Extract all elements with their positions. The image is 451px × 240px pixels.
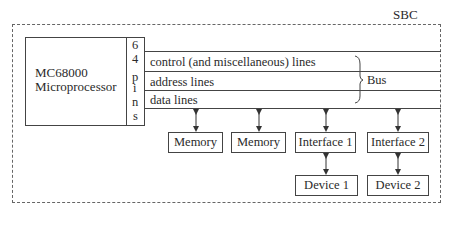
memory-box-2: Memory	[231, 132, 286, 153]
device-1-box: Device 1	[295, 175, 358, 196]
device-1-label: Device 1	[304, 178, 349, 193]
interface-2-label: Interface 2	[371, 135, 425, 150]
interface-2-box: Interface 2	[367, 132, 429, 153]
device-2-box: Device 2	[367, 175, 429, 196]
memory-label: Memory	[237, 135, 280, 150]
memory-box-1: Memory	[168, 132, 223, 153]
bus-label: Bus	[367, 74, 386, 87]
interface-1-label: Interface 1	[299, 135, 353, 150]
memory-label: Memory	[174, 135, 217, 150]
device-2-label: Device 2	[376, 178, 421, 193]
interface-1-box: Interface 1	[295, 132, 356, 153]
bus-brace-icon	[355, 56, 363, 103]
